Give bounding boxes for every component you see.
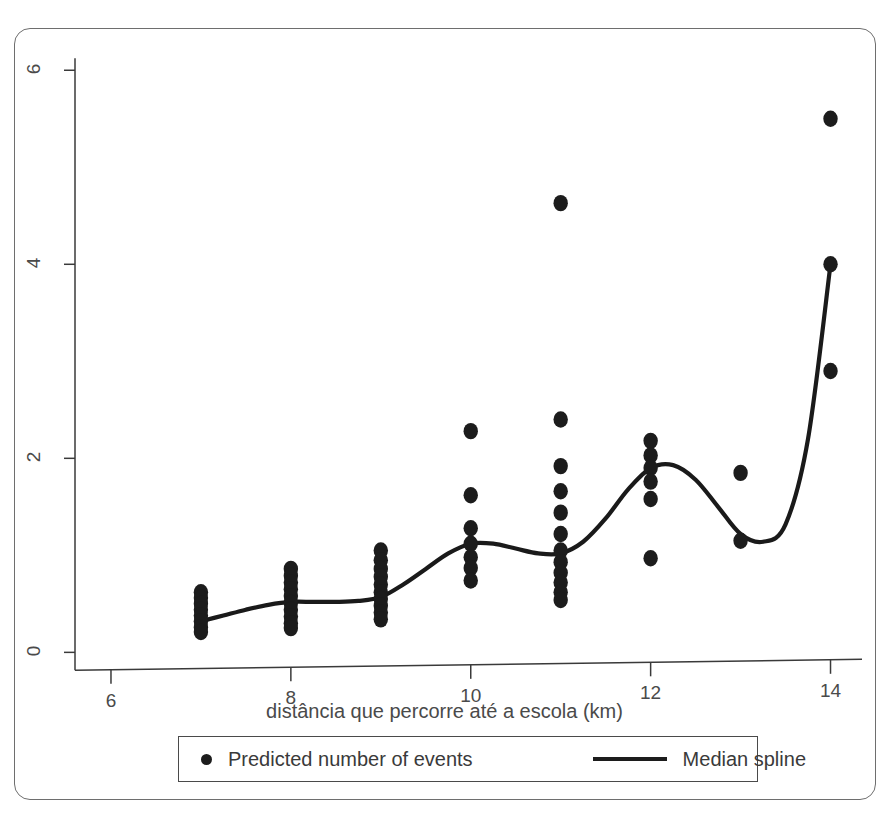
data-point xyxy=(643,473,657,489)
data-point xyxy=(464,520,478,536)
data-point xyxy=(464,487,478,503)
data-point xyxy=(464,572,478,588)
data-point xyxy=(643,550,657,566)
data-point xyxy=(553,483,567,499)
y-tick-label-2: 2 xyxy=(23,440,45,474)
y-tick-label-0: 0 xyxy=(23,634,45,668)
y-tick-label-4: 4 xyxy=(23,246,45,280)
y-tick-label-6: 6 xyxy=(23,52,45,86)
x-tick-label-14: 14 xyxy=(806,680,856,702)
data-point xyxy=(733,533,747,549)
predicted-events-series xyxy=(194,111,838,641)
data-point xyxy=(643,433,657,449)
legend-dot-marker-icon xyxy=(201,754,212,765)
data-point xyxy=(194,624,208,640)
data-point xyxy=(823,256,837,272)
data-point xyxy=(823,363,837,379)
data-point xyxy=(553,411,567,427)
data-point xyxy=(643,491,657,507)
legend-label-predicted-events: Predicted number of events xyxy=(228,748,473,771)
axes-group xyxy=(64,58,862,684)
legend-entry-median-spline: Median spline xyxy=(593,737,806,781)
chart-legend: Predicted number of events Median spline xyxy=(178,736,758,782)
data-point xyxy=(733,465,747,481)
legend-entry-predicted-events: Predicted number of events xyxy=(201,737,473,781)
data-point xyxy=(553,195,567,211)
data-point xyxy=(284,620,298,636)
legend-label-median-spline: Median spline xyxy=(683,748,806,771)
data-point xyxy=(553,526,567,542)
data-point xyxy=(374,611,388,627)
data-point xyxy=(464,423,478,439)
x-axis-label: distância que percorre até a escola (km) xyxy=(0,700,889,723)
x-axis-line xyxy=(75,659,862,670)
data-point xyxy=(553,504,567,520)
legend-line-marker-icon xyxy=(593,757,667,761)
data-point xyxy=(823,111,837,127)
data-point xyxy=(553,592,567,608)
figure-container: 0 2 4 6 6 8 10 12 14 distância que perco… xyxy=(0,0,889,824)
data-point xyxy=(553,458,567,474)
